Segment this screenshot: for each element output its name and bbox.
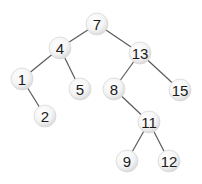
tree-node-12: 12 <box>158 150 180 172</box>
node-label: 8 <box>110 81 118 98</box>
node-label: 15 <box>172 82 189 99</box>
tree-node-11: 11 <box>138 111 160 133</box>
node-label: 4 <box>56 40 64 57</box>
node-label: 11 <box>141 114 157 131</box>
tree-node-13: 13 <box>129 42 151 64</box>
node-label: 13 <box>132 45 149 62</box>
tree-node-15: 15 <box>169 79 191 101</box>
node-label: 9 <box>123 153 131 170</box>
node-label: 1 <box>18 71 26 88</box>
node-label: 7 <box>93 16 101 33</box>
node-label: 2 <box>41 108 49 125</box>
tree-nodes: 741315815211912 <box>11 13 191 172</box>
tree-node-8: 8 <box>103 78 125 100</box>
tree-edges <box>22 24 180 161</box>
node-label: 5 <box>76 81 84 98</box>
tree-node-1: 1 <box>11 68 33 90</box>
tree-node-2: 2 <box>34 105 56 127</box>
tree-node-4: 4 <box>49 37 71 59</box>
tree-node-9: 9 <box>116 150 138 172</box>
node-label: 12 <box>161 153 178 170</box>
tree-node-5: 5 <box>69 78 91 100</box>
binary-tree-diagram: 741315815211912 <box>0 0 202 184</box>
tree-node-7: 7 <box>86 13 108 35</box>
